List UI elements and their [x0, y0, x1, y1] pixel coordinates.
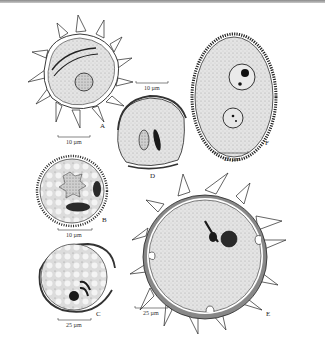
panel-f-nucleus-2 [223, 108, 243, 128]
panel-c-label: C [96, 310, 101, 318]
panel-f-nucleus-1 [229, 64, 255, 90]
panel-e-aperture-left [149, 252, 155, 260]
panel-d-label: D [150, 172, 155, 180]
panel-c-scale-label: 25 µm [66, 322, 82, 328]
panel-f-scale-label: 25 µm [224, 156, 240, 162]
panel-e-scale-label: 25 µm [143, 310, 159, 316]
panel-a-nucleus [75, 73, 93, 91]
panel-e: E 25 µm [130, 173, 286, 334]
panel-e-label: E [266, 310, 270, 318]
panel-e-aperture-bottom [206, 306, 214, 312]
panel-e-cytoplasm [149, 200, 261, 312]
panel-e-nucleus [221, 231, 237, 247]
pollen-figure: A 10 µm 10 µm D F 25 µm [0, 0, 325, 353]
panel-b-sperm-cell [66, 203, 90, 212]
panel-b-generative-cell [93, 181, 101, 197]
panel-f-label: F [265, 139, 269, 147]
panel-d: 10 µm D [118, 81, 186, 180]
panel-d-scale-label: 10 µm [144, 85, 160, 91]
panel-f-cytoplasm [195, 37, 273, 157]
panel-a-scale-label: 10 µm [66, 139, 82, 145]
panel-a-label: A [100, 122, 105, 130]
panel-b-label: B [102, 216, 107, 224]
panel-b-scale-label: 10 µm [66, 232, 82, 238]
panel-a: A 10 µm [28, 15, 133, 145]
panel-f: F 25 µm [192, 34, 276, 162]
panel-c-nucleus [69, 291, 79, 301]
panel-e-aperture-right [255, 236, 261, 245]
panel-b: B 10 µm [37, 156, 107, 238]
panel-d-cell [118, 98, 185, 166]
panel-c: C 25 µm [39, 244, 115, 328]
panel-d-vegetative-nucleus [139, 130, 149, 150]
